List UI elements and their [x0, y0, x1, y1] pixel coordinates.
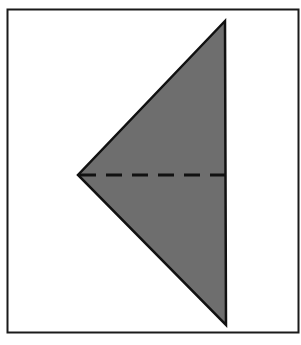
fold-diagram: [0, 0, 301, 345]
